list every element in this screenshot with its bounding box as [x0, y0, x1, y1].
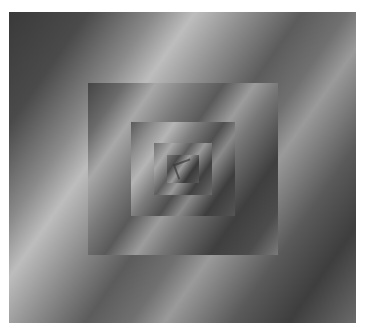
center-swirl-icon	[173, 158, 195, 179]
square-5	[167, 155, 199, 183]
